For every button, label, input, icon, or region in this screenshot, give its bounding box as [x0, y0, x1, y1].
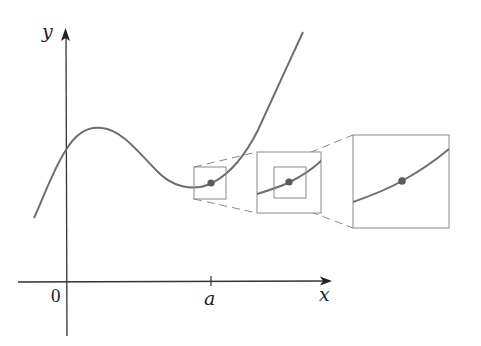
y-axis [61, 28, 70, 336]
point-a-icon [398, 177, 406, 185]
point-a-icon [207, 179, 214, 186]
zoom-diagram: y x 0 a [0, 0, 481, 346]
zoom-box-large [353, 135, 449, 228]
zoom-box-medium [257, 148, 322, 213]
x-axis-label: x [319, 283, 330, 305]
origin-label: 0 [51, 285, 61, 306]
y-axis-label: y [41, 20, 53, 42]
point-a-icon [285, 178, 292, 185]
zoom-box-small [194, 167, 226, 199]
x-axis [18, 276, 332, 286]
tick-label-a: a [204, 287, 215, 309]
